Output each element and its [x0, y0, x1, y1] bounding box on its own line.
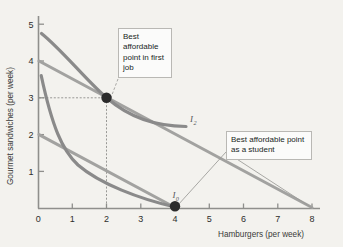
y-tick-label-2: 2	[28, 130, 33, 140]
callout-best-affordable-student: Best affordable point as a student	[226, 131, 312, 160]
x-tick-label-3: 3	[138, 214, 143, 224]
curve-label-i2-group: I 2	[189, 114, 196, 126]
curve-label-i0-group: I 0	[172, 190, 180, 202]
y-tick-label-5: 5	[28, 20, 33, 30]
callout-best-affordable-first-job: Best affordable point in first job	[118, 28, 172, 78]
y-tick-label-3: 3	[28, 93, 33, 103]
y-axis-title: Gourmet sandwiches (per week)	[6, 67, 15, 185]
curve-label-i0-subscript: 0	[176, 195, 180, 202]
leader-line-student	[178, 152, 226, 205]
x-tick-labels: 0 1 2 3 4 5 6 7 8	[36, 214, 315, 224]
x-tick-label-6: 6	[241, 214, 246, 224]
x-tick-label-5: 5	[207, 214, 212, 224]
x-tick-label-7: 7	[275, 214, 280, 224]
curve-label-i2-subscript: 2	[193, 119, 196, 126]
x-axis-title: Hamburgers (per week)	[218, 230, 304, 239]
y-tick-labels: 5 4 3 2 1	[28, 20, 33, 177]
leader-line-student-extension	[226, 152, 312, 208]
x-tick-label-8: 8	[309, 214, 314, 224]
optimum-point-first-job	[101, 93, 111, 103]
x-tick-label-2: 2	[104, 214, 109, 224]
y-tick-label-1: 1	[28, 167, 33, 177]
optimum-point-student	[170, 201, 180, 211]
chart-figure: 5 4 3 2 1 0 1 2 3 4 5 6 7 8 Gourmet sand…	[0, 0, 343, 247]
x-tick-label-1: 1	[70, 214, 75, 224]
budget-line-student	[39, 135, 175, 208]
x-tick-label-4: 4	[172, 214, 177, 224]
x-tick-label-0: 0	[36, 214, 41, 224]
y-tick-label-4: 4	[28, 56, 33, 66]
axes-group	[38, 16, 320, 209]
